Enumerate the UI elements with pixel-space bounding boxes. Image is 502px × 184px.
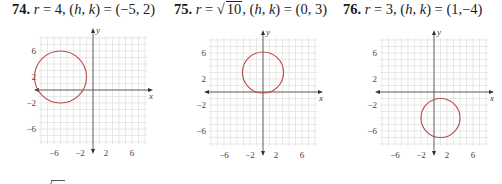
coordinate-graph-3: xy−6−22662−2−6 <box>0 0 502 184</box>
x-tick-label: −6 <box>390 150 400 160</box>
y-tick-label: −2 <box>367 100 377 110</box>
y-arrow-down-icon <box>432 151 436 156</box>
x-tick-label: −2 <box>416 150 426 160</box>
y-axis-label: y <box>436 27 441 37</box>
y-tick-label: 6 <box>373 48 378 58</box>
x-axis-label: x <box>489 93 494 103</box>
x-arrow-left-icon <box>375 90 380 94</box>
y-tick-label: 2 <box>373 74 378 84</box>
y-tick-label: −6 <box>367 126 377 136</box>
x-tick-label: 6 <box>471 150 476 160</box>
axes: xy−6−22662−2−6 <box>367 27 494 160</box>
y-arrow-up-icon <box>432 30 436 35</box>
partial-sqrt-overline <box>51 180 65 181</box>
x-tick-label: 2 <box>445 150 450 160</box>
